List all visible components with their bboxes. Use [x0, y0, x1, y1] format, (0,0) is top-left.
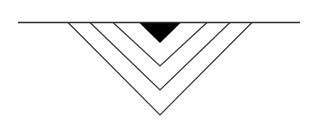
figure-canvas [0, 0, 319, 123]
nested-chevron-diagram [0, 0, 319, 123]
background-rect [0, 0, 319, 123]
